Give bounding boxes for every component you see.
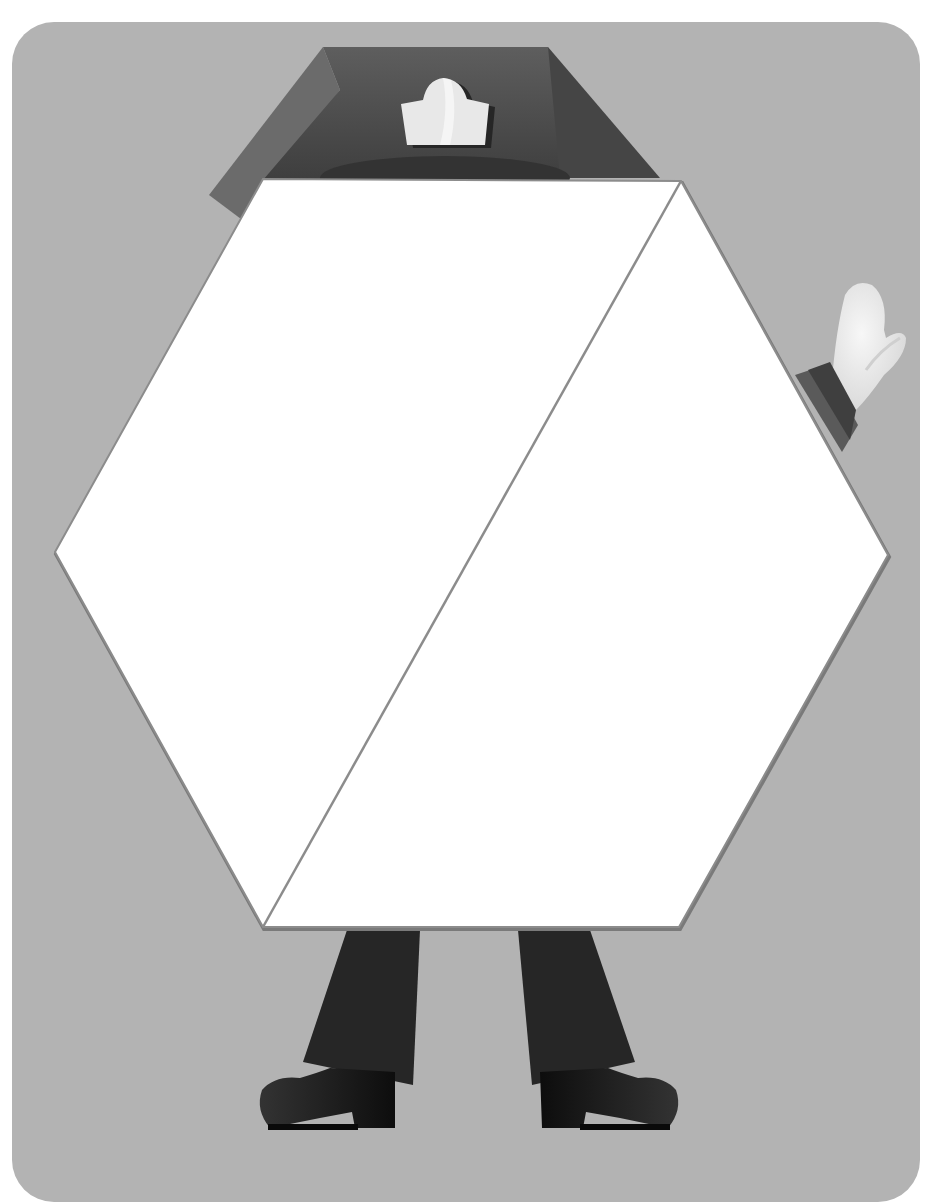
right-shoe <box>540 1068 678 1128</box>
left-shoe-sole <box>268 1124 358 1130</box>
left-shoe <box>260 1068 395 1128</box>
hexagon-body <box>55 179 889 929</box>
left-trouser <box>303 930 420 1085</box>
right-trouser <box>518 930 635 1085</box>
right-shoe-sole <box>580 1124 670 1130</box>
legs <box>260 930 678 1130</box>
